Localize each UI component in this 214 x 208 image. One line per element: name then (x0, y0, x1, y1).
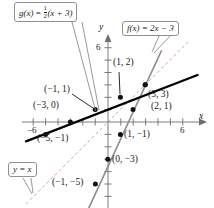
g-expression-rest: (x + 3) (47, 8, 72, 18)
x-tick-label-neg6: −6 (27, 126, 37, 135)
point-label-0-neg3: (0, −3) (112, 155, 138, 165)
callout-identity-line: y = x (8, 162, 37, 177)
y-axis (104, 34, 111, 208)
point-label-2-1: (2, 1) (151, 102, 172, 112)
callout-f-function: f(x) = 2x − 3 (122, 21, 179, 36)
point-label-neg1-1: (−1, 1) (44, 85, 70, 95)
x-tick-label-6: 6 (180, 126, 185, 135)
graph-figure: g(x) = 1 2 (x + 3) f(x) = 2x − 3 y = x x… (0, 0, 214, 208)
point-label-3-3: (3, 3) (148, 90, 169, 100)
point-label-1-neg1: (1, −1) (124, 130, 150, 140)
point-label-leaders (72, 72, 120, 108)
point-label-1-2: (1, 2) (113, 58, 134, 68)
callout-g-function: g(x) = 1 2 (x + 3) (14, 2, 77, 22)
point-label-neg3-0: (−3, 0) (33, 101, 59, 111)
g-function-name: g(x) (19, 8, 34, 18)
y-tick-label-6: 6 (96, 43, 101, 52)
y-axis-label: y (99, 23, 103, 33)
point-label-neg1-neg5: (−1, −5) (52, 178, 83, 188)
g-equals-sign: = (36, 8, 41, 18)
x-axis-label: x (199, 112, 203, 122)
point-label-neg5-neg1: (−5, −1) (37, 134, 68, 144)
